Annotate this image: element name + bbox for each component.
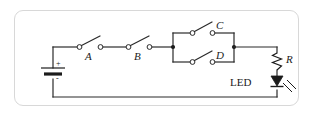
resistor-zigzag bbox=[273, 53, 282, 70]
switch-a-lever[interactable] bbox=[82, 36, 101, 46]
battery-plus-label: + bbox=[56, 59, 61, 68]
led-triangle bbox=[271, 76, 283, 86]
switch-c-right-terminal[interactable] bbox=[210, 31, 215, 36]
switch-b-lever[interactable] bbox=[131, 36, 150, 46]
circuit-diagram-screen: + - A B C D R LED bbox=[0, 0, 312, 117]
switch-c-label: C bbox=[216, 19, 224, 31]
switch-a-right-terminal[interactable] bbox=[98, 45, 103, 50]
switch-b-right-terminal[interactable] bbox=[147, 45, 152, 50]
circuit-schematic: + - A B C D R LED bbox=[0, 0, 312, 117]
switch-c-lever[interactable] bbox=[195, 22, 213, 32]
switch-d-right-terminal[interactable] bbox=[210, 60, 215, 65]
switch-a-label: A bbox=[84, 50, 92, 62]
switch-d-lever[interactable] bbox=[195, 51, 213, 61]
battery-minus-label: - bbox=[56, 74, 59, 83]
resistor-label: R bbox=[285, 53, 293, 65]
switch-b-label: B bbox=[134, 50, 141, 62]
switch-d-label: D bbox=[215, 49, 224, 61]
led-label: LED bbox=[230, 76, 251, 88]
junction-node-left bbox=[171, 45, 175, 49]
